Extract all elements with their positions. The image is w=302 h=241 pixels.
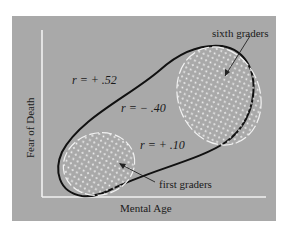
overall-correlation-label: r = + .52 bbox=[72, 73, 117, 87]
x-axis-label: Mental Age bbox=[120, 202, 172, 214]
y-axis-label: Fear of Death bbox=[24, 97, 36, 158]
sixth-graders-label: sixth graders bbox=[212, 27, 269, 39]
correlation-diagram: r = + .52 r = − .40 r = + .10 sixth grad… bbox=[0, 0, 302, 241]
within-sixth-correlation-label: r = − .40 bbox=[121, 101, 166, 115]
first-graders-label: first graders bbox=[159, 178, 212, 190]
within-first-correlation-label: r = + .10 bbox=[140, 138, 185, 152]
